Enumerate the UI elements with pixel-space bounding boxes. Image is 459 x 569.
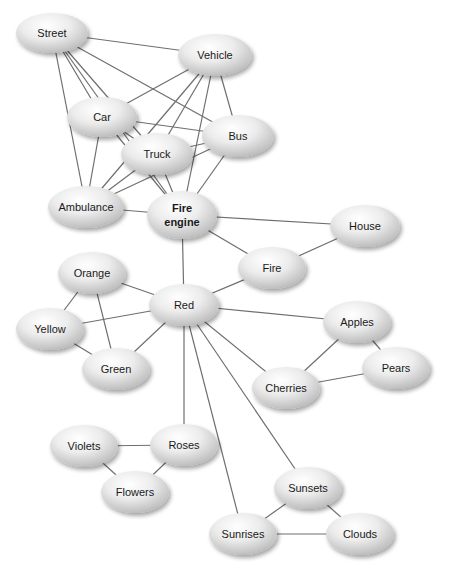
node-clouds: Clouds bbox=[326, 513, 394, 555]
node-green: Green bbox=[82, 348, 150, 390]
node-label: Sunsets bbox=[288, 482, 328, 494]
node-red: Red bbox=[149, 284, 219, 326]
node-label: Clouds bbox=[343, 528, 378, 540]
node-label: Fire bbox=[172, 202, 192, 214]
node-label: Roses bbox=[168, 439, 200, 451]
node-label: Cherries bbox=[265, 382, 307, 394]
node-bus: Bus bbox=[202, 115, 274, 157]
node-label: Violets bbox=[68, 440, 101, 452]
node-street: Street bbox=[16, 13, 88, 53]
node-orange: Orange bbox=[58, 252, 126, 294]
node-label: Orange bbox=[74, 267, 111, 279]
node-label: Fire bbox=[263, 262, 282, 274]
node-ellipse bbox=[147, 191, 217, 239]
node-label: Vehicle bbox=[197, 49, 232, 61]
edge-red-sunrises bbox=[184, 305, 243, 534]
node-apples: Apples bbox=[323, 301, 391, 343]
node-sunsets: Sunsets bbox=[274, 467, 342, 509]
node-fire-engine: Fireengine bbox=[147, 191, 217, 239]
node-ambulance: Ambulance bbox=[48, 186, 124, 228]
node-label: Flowers bbox=[116, 486, 155, 498]
nodes-layer: StreetVehicleCarBusTruckAmbulanceFireeng… bbox=[16, 13, 430, 555]
node-label: engine bbox=[164, 216, 199, 228]
node-label: Bus bbox=[229, 130, 248, 142]
node-label: Truck bbox=[143, 148, 171, 160]
node-roses: Roses bbox=[150, 424, 218, 466]
node-label: Green bbox=[101, 363, 132, 375]
node-house: House bbox=[330, 205, 400, 247]
node-truck: Truck bbox=[121, 133, 193, 175]
node-label: Apples bbox=[340, 316, 374, 328]
node-label: House bbox=[349, 220, 381, 232]
node-label: Pears bbox=[382, 362, 411, 374]
node-label: Street bbox=[37, 27, 66, 39]
node-label: Red bbox=[174, 299, 194, 311]
node-label: Car bbox=[93, 111, 111, 123]
node-sunrises: Sunrises bbox=[209, 513, 277, 555]
node-label: Ambulance bbox=[58, 201, 113, 213]
semantic-network-diagram: StreetVehicleCarBusTruckAmbulanceFireeng… bbox=[0, 0, 459, 569]
node-violets: Violets bbox=[50, 425, 118, 467]
node-yellow: Yellow bbox=[16, 308, 84, 350]
node-cherries: Cherries bbox=[252, 367, 320, 409]
node-car: Car bbox=[67, 97, 137, 137]
node-vehicle: Vehicle bbox=[178, 34, 252, 76]
node-fire: Fire bbox=[238, 247, 306, 289]
node-pears: Pears bbox=[362, 347, 430, 389]
node-label: Sunrises bbox=[222, 528, 265, 540]
node-label: Yellow bbox=[34, 323, 65, 335]
node-flowers: Flowers bbox=[101, 471, 169, 513]
